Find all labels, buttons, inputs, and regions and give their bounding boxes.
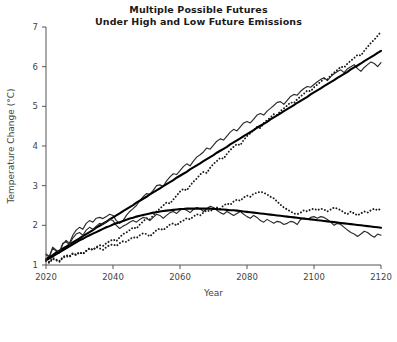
- series-line-5: [46, 209, 381, 261]
- x-tick-label-2020: 2020: [35, 272, 57, 282]
- y-tick-label-4: 4: [33, 141, 38, 151]
- y-tick-label-2: 2: [33, 220, 38, 230]
- series-line-2: [46, 51, 381, 259]
- y-tick-label-5: 5: [33, 101, 38, 111]
- y-tick-label-3: 3: [33, 181, 38, 191]
- x-tick-label-2060: 2060: [169, 272, 191, 282]
- x-tick-label-2100: 2100: [303, 272, 325, 282]
- x-tick-label-2040: 2040: [102, 272, 124, 282]
- y-tick-label-1: 1: [33, 260, 38, 270]
- y-tick-label-7: 7: [33, 22, 38, 32]
- x-axis-title: Year: [203, 288, 223, 298]
- chart-figure: Multiple Possible Futures Under High and…: [0, 0, 397, 342]
- x-tick-label-2120: 2120: [370, 272, 392, 282]
- plot-area: 1234567202020402060208021002120YearTempe…: [0, 0, 397, 342]
- x-tick-label-2080: 2080: [236, 272, 258, 282]
- y-axis-title: Temperature Change (°C): [6, 89, 16, 205]
- series-layer: [46, 32, 381, 263]
- y-tick-label-6: 6: [33, 62, 38, 72]
